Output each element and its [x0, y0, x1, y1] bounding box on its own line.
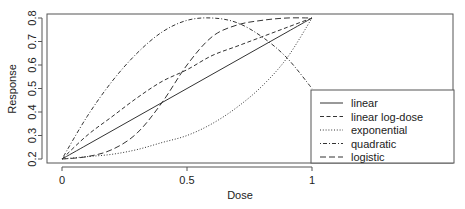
- y-tick-label: 0.8: [26, 10, 38, 25]
- x-tick-label: 0.5: [179, 174, 194, 186]
- legend: linearlinear log-doseexponentialquadrati…: [311, 90, 454, 163]
- y-axis: 0.20.30.40.50.60.70.8: [26, 10, 42, 166]
- y-tick-label: 0.4: [26, 104, 38, 119]
- y-tick-label: 0.5: [26, 81, 38, 96]
- series-group: [62, 18, 312, 159]
- series-linear: [62, 18, 312, 159]
- y-tick-label: 0.2: [26, 151, 38, 166]
- y-tick-label: 0.3: [26, 128, 38, 143]
- y-tick-label: 0.6: [26, 57, 38, 72]
- chart: 0.20.30.40.50.60.70.8 00.51 Dose Respons…: [0, 0, 465, 209]
- legend-label: linear log-dose: [351, 111, 423, 123]
- x-tick-label: 1: [309, 174, 315, 186]
- y-tick-label: 0.7: [26, 34, 38, 49]
- legend-label: quadratic: [351, 138, 397, 150]
- legend-label: logistic: [351, 151, 385, 163]
- y-axis-label: Response: [6, 64, 18, 114]
- x-tick-label: 0: [59, 174, 65, 186]
- legend-label: exponential: [351, 124, 407, 136]
- legend-label: linear: [351, 97, 378, 109]
- x-axis: 00.51: [59, 167, 315, 186]
- x-axis-label: Dose: [227, 189, 253, 201]
